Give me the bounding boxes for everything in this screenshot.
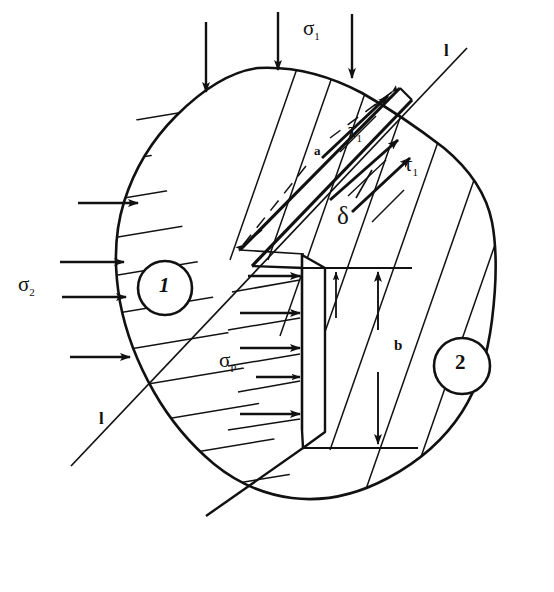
sigma1-symbol: σ — [303, 16, 314, 40]
sigmaP-label: σP — [219, 350, 236, 374]
figure-canvas: σ1 σ2 σP τ1 τ1 δ a b l l 1 2 — [0, 0, 554, 592]
tau1-upper-label: τ1 — [348, 120, 362, 144]
block1-label: 1 — [159, 275, 170, 296]
block2-label: 2 — [455, 352, 466, 373]
sigma2-label: σ2 — [18, 274, 35, 298]
diagram-svg — [0, 0, 554, 592]
tau1-upper-subscript: 1 — [356, 132, 362, 144]
line-l-bottom-label: l — [99, 410, 104, 427]
sigma2-subscript: 2 — [29, 286, 35, 298]
line-l-top-label: l — [444, 42, 449, 59]
delta-label: δ — [337, 203, 349, 228]
sigma1-label: σ1 — [303, 18, 320, 42]
sigma2-symbol: σ — [18, 272, 29, 296]
tau1-lower-label: τ1 — [404, 154, 418, 178]
sigmaP-subscript: P — [230, 362, 236, 374]
sigma1-subscript: 1 — [314, 30, 320, 42]
sigmaP-symbol: σ — [219, 348, 230, 372]
dimension-a-label: a — [314, 144, 321, 157]
pillar-slab — [302, 255, 325, 448]
dimension-b-label: b — [394, 338, 402, 353]
tau1-lower-subscript: 1 — [412, 166, 418, 178]
